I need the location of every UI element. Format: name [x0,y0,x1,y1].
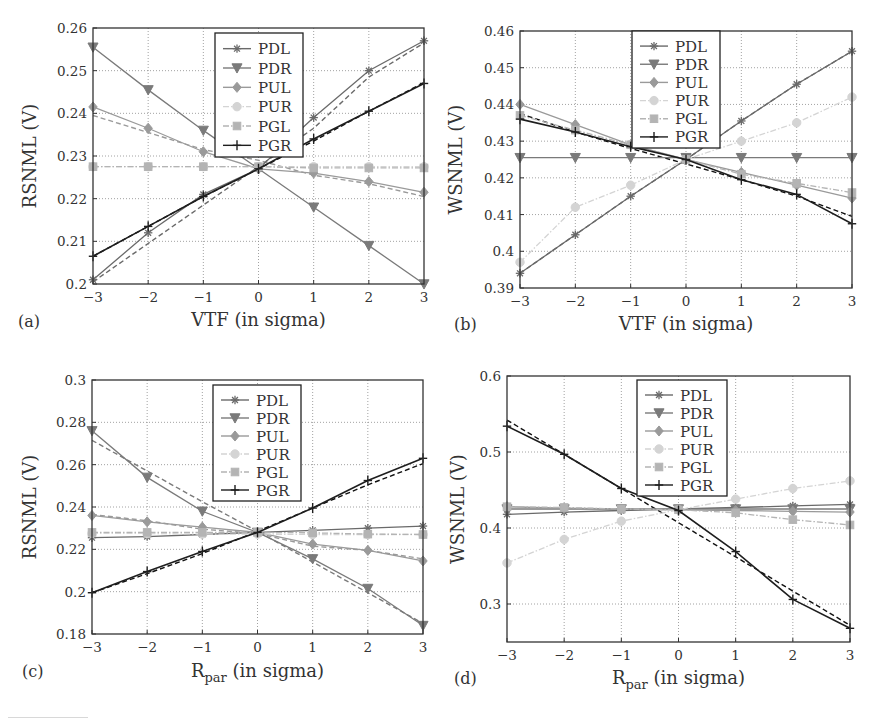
plus-marker-icon [309,134,317,144]
plus-marker-icon [789,594,797,604]
legend-label: PUR [680,441,714,459]
y-axis-label: WSNML (V) [445,105,466,215]
y-tick-label: 0.4 [480,520,501,536]
star-marker-icon [365,66,373,74]
y-tick-label: 0.4 [493,243,514,259]
x-tick-label: −2 [554,647,574,663]
x-tick-label: 1 [737,293,746,309]
circle-marker-icon [571,203,579,211]
circle-marker-icon [650,96,658,104]
y-tick-label: 0.26 [57,20,87,36]
x-tick-label: 0 [254,289,263,305]
square-marker-icon [231,468,239,476]
square-marker-icon [793,180,801,188]
legend-label: PGR [675,128,709,146]
legend-label: PUL [680,423,712,441]
x-tick-label: −1 [621,293,641,309]
diamond-marker-icon [143,517,151,527]
circle-marker-icon [731,495,739,503]
circle-marker-icon [233,102,241,110]
chart-panel-d: −3−2−101230.30.40.50.6PDLPDRPULPURPGLPGR… [447,368,855,692]
legend-label: PDR [256,410,290,428]
legend: PDLPDRPULPURPGLPGR [637,380,727,496]
square-marker-icon [233,122,241,130]
y-tick-label: 0.45 [484,60,514,76]
x-tick-label: −1 [193,289,213,305]
star-marker-icon [233,44,241,52]
x-tick-label: 1 [309,289,318,305]
legend-label: PGL [256,464,288,482]
star-marker-icon [231,396,239,404]
legend-label: PGR [680,477,714,495]
square-marker-icon [732,509,740,517]
y-axis-label: WSNML (V) [447,454,468,564]
square-marker-icon [618,505,626,513]
x-axis-label: Rpar (in sigma) [191,660,324,685]
legend-label: PGL [258,118,290,136]
triangle-marker-icon [309,203,319,212]
x-tick-label: 2 [789,647,798,663]
plus-marker-icon [365,106,373,116]
square-marker-icon [309,529,317,537]
legend-label: PDR [675,56,709,74]
y-tick-label: 0.22 [56,541,86,557]
star-marker-icon [309,113,317,121]
y-tick-label: 0.5 [480,444,501,460]
y-tick-label: 0.3 [65,372,86,388]
x-tick-label: −3 [497,647,517,663]
circle-marker-icon [655,445,663,453]
legend: PDLPDRPULPURPGLPGR [213,385,301,501]
y-tick-label: 0.44 [484,96,514,112]
y-tick-label: 0.24 [57,105,87,121]
triangle-marker-icon [308,555,318,564]
star-marker-icon [792,80,800,88]
circle-marker-icon [792,119,800,127]
plus-marker-icon [308,503,316,513]
legend: PDLPDRPULPURPGLPGR [215,33,303,157]
y-tick-label: 0.21 [57,233,87,249]
square-marker-icon [310,164,318,172]
x-tick-label: 0 [674,647,683,663]
triangle-marker-icon [364,241,374,250]
panel-label: (c) [22,662,43,681]
figure: −3−2−101230.20.210.220.230.240.250.26PDL… [0,0,880,720]
page-rule [8,717,88,718]
legend-label: PDL [256,392,288,410]
legend: PDLPDRPULPURPGLPGR [632,31,720,148]
triangle-marker-icon [198,126,208,135]
x-tick-label: −1 [611,647,631,663]
square-marker-icon [789,516,797,524]
square-marker-icon [365,164,373,172]
y-tick-label: 0.23 [57,148,87,164]
y-tick-label: 0.25 [57,63,87,79]
x-tick-label: 2 [364,639,373,655]
star-marker-icon [655,391,663,399]
triangle-marker-icon [363,584,373,593]
circle-marker-icon [626,181,634,189]
x-tick-label: 0 [253,639,262,655]
legend-label: PGR [256,482,290,500]
x-tick-label: 1 [308,639,317,655]
y-tick-label: 0.39 [484,280,514,296]
legend-label: PUL [256,428,288,446]
legend-label: PDL [680,387,712,405]
x-tick-label: 3 [848,293,857,309]
diamond-marker-icon [308,539,316,549]
y-tick-label: 0.41 [484,207,514,223]
star-marker-icon [737,117,745,125]
x-tick-label: 0 [682,293,691,309]
circle-marker-icon [737,137,745,145]
x-tick-label: 3 [419,639,428,655]
square-marker-icon [144,163,152,171]
legend-label: PUL [675,74,707,92]
y-tick-label: 0.24 [56,499,86,515]
legend-label: PUR [256,446,290,464]
y-tick-label: 0.43 [484,133,514,149]
circle-marker-icon [560,535,568,543]
plus-marker-icon [731,547,739,557]
x-tick-label: 2 [365,289,374,305]
y-tick-label: 0.2 [65,584,86,600]
star-marker-icon [650,42,658,50]
square-marker-icon [655,463,663,471]
legend-label: PGL [680,459,712,477]
